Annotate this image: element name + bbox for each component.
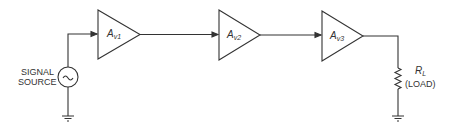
cascaded-amplifier-diagram: SIGNAL SOURCE Av1 Av2 Av3 RL (LOAD) bbox=[0, 0, 453, 134]
amp2-gain-label: Av2 bbox=[226, 29, 241, 41]
load-caption: (LOAD) bbox=[405, 79, 436, 89]
arrowhead-amp2 bbox=[212, 32, 218, 37]
amp3-to-load-wire bbox=[363, 36, 398, 68]
signal-source-label-line2: SOURCE bbox=[18, 77, 57, 87]
ac-source-icon bbox=[58, 67, 78, 87]
resistor-icon bbox=[395, 68, 401, 89]
ground-icon-load bbox=[392, 116, 404, 121]
arrowhead-amp1 bbox=[91, 32, 97, 37]
amp1-gain-label: Av1 bbox=[106, 28, 121, 40]
ground-icon-source bbox=[62, 116, 74, 121]
arrowhead-amp3 bbox=[315, 33, 321, 38]
tilde-icon bbox=[63, 76, 73, 80]
signal-source-label-line1: SIGNAL bbox=[21, 67, 54, 77]
amp3-gain-label: Av3 bbox=[329, 30, 344, 42]
source-to-amp1-wire bbox=[68, 34, 97, 67]
load-resistor-label: RL bbox=[415, 65, 426, 77]
